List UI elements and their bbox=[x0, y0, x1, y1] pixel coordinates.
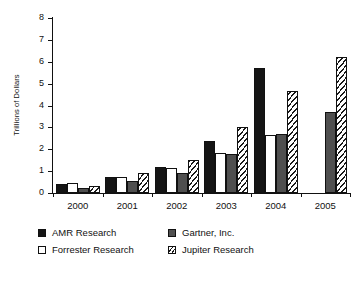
bar-amr-2002 bbox=[155, 167, 166, 193]
bar-group-bars bbox=[105, 18, 149, 193]
y-axis-tick: 6 bbox=[48, 62, 53, 63]
bar-gartner-2001 bbox=[127, 181, 138, 193]
y-axis-tick-label: 6 bbox=[39, 55, 44, 68]
bar-amr-2001 bbox=[105, 177, 116, 193]
x-axis-tick bbox=[103, 193, 104, 197]
bar-jupiter-2000 bbox=[89, 186, 100, 193]
y-axis-tick: 7 bbox=[48, 40, 53, 41]
bar-group-bars bbox=[155, 18, 199, 193]
bar-jupiter-2003 bbox=[237, 127, 248, 193]
x-axis-label-2005: 2005 bbox=[301, 199, 351, 212]
bar-amr-2000 bbox=[56, 184, 67, 193]
bar-group-2001 bbox=[105, 18, 149, 193]
y-axis-tick: 5 bbox=[48, 84, 53, 85]
x-axis-label-2003: 2003 bbox=[202, 199, 252, 212]
bar-group-2005 bbox=[303, 18, 347, 193]
bar-forrester-2002 bbox=[166, 168, 177, 193]
y-axis-tick-label: 2 bbox=[39, 142, 44, 155]
legend-swatch-icon-forrester bbox=[38, 246, 46, 254]
bar-chart: Trillions of Dollars 012345678 AMR Resea… bbox=[0, 0, 364, 281]
x-axis-tick bbox=[301, 193, 302, 197]
y-axis-tick-label: 3 bbox=[39, 120, 44, 133]
bar-gartner-2002 bbox=[177, 173, 188, 193]
bar-forrester-2003 bbox=[215, 153, 226, 193]
y-axis-tick: 8 bbox=[48, 18, 53, 19]
legend-swatch-icon-gartner bbox=[168, 229, 176, 237]
bar-gartner-2004 bbox=[276, 134, 287, 193]
bar-group-2003 bbox=[204, 18, 248, 193]
bar-group-bars bbox=[303, 18, 347, 193]
bar-gartner-2005 bbox=[325, 112, 336, 193]
x-axis-label-2002: 2002 bbox=[152, 199, 202, 212]
bar-group-bars bbox=[204, 18, 248, 193]
x-axis-tick bbox=[152, 193, 153, 197]
bar-amr-2004 bbox=[254, 68, 265, 193]
x-axis-label-2001: 2001 bbox=[103, 199, 153, 212]
y-axis-title-text: Trillions of Dollars bbox=[12, 62, 21, 148]
bar-group-2004 bbox=[254, 18, 298, 193]
bar-gartner-2000 bbox=[78, 188, 89, 193]
bar-jupiter-2004 bbox=[287, 91, 298, 193]
x-axis-label-2000: 2000 bbox=[53, 199, 103, 212]
legend-label-forrester: Forrester Research bbox=[52, 244, 134, 256]
bar-forrester-2004 bbox=[265, 135, 276, 193]
x-axis-tick bbox=[53, 193, 54, 197]
y-axis-tick: 4 bbox=[48, 106, 53, 107]
x-axis-tick bbox=[350, 193, 351, 197]
bar-amr-2003 bbox=[204, 141, 215, 194]
bar-gartner-2003 bbox=[226, 154, 237, 193]
plot-area: 012345678 bbox=[53, 18, 350, 193]
bar-jupiter-2002 bbox=[188, 160, 199, 193]
legend-label-jupiter: Jupiter Research bbox=[182, 244, 254, 256]
legend-row: Forrester Research Jupiter Research bbox=[38, 243, 298, 257]
y-axis-tick-label: 4 bbox=[39, 99, 44, 112]
bar-group-2000 bbox=[56, 18, 100, 193]
legend-item-gartner-inc: Gartner, Inc. bbox=[168, 227, 234, 239]
bar-jupiter-2001 bbox=[138, 173, 149, 193]
x-axis-label-2004: 2004 bbox=[251, 199, 301, 212]
bar-group-bars bbox=[56, 18, 100, 193]
bar-group-bars bbox=[254, 18, 298, 193]
chart-legend: AMR Research Gartner, Inc. Forrester Res… bbox=[38, 226, 298, 260]
legend-item-forrester-research: Forrester Research bbox=[38, 244, 168, 256]
y-axis-tick: 2 bbox=[48, 149, 53, 150]
bar-jupiter-2005 bbox=[336, 57, 347, 193]
bar-group-2002 bbox=[155, 18, 199, 193]
x-axis-tick bbox=[202, 193, 203, 197]
bar-forrester-2001 bbox=[116, 177, 127, 193]
legend-label-amr: AMR Research bbox=[52, 227, 116, 239]
y-axis-tick-label: 1 bbox=[39, 164, 44, 177]
y-axis-tick-label: 7 bbox=[39, 33, 44, 46]
legend-row: AMR Research Gartner, Inc. bbox=[38, 226, 298, 240]
legend-swatch-icon-amr bbox=[38, 229, 46, 237]
y-axis-tick-label: 0 bbox=[39, 186, 44, 199]
y-axis-tick-label: 5 bbox=[39, 77, 44, 90]
legend-label-gartner: Gartner, Inc. bbox=[182, 227, 234, 239]
bar-forrester-2000 bbox=[67, 183, 78, 193]
x-axis-tick bbox=[251, 193, 252, 197]
y-axis-tick: 1 bbox=[48, 171, 53, 172]
legend-item-jupiter-research: Jupiter Research bbox=[168, 244, 254, 256]
legend-item-amr-research: AMR Research bbox=[38, 227, 168, 239]
y-axis-tick: 3 bbox=[48, 127, 53, 128]
legend-swatch-icon-jupiter bbox=[168, 246, 176, 254]
y-axis-tick-label: 8 bbox=[39, 11, 44, 24]
